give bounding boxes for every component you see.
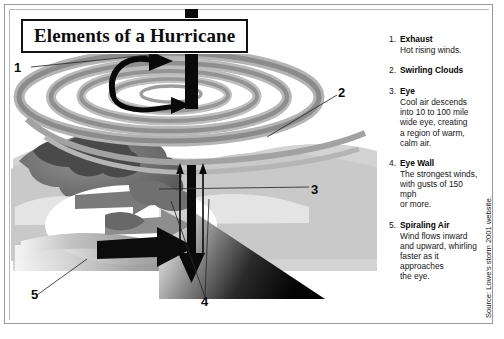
legend-number: 5. — [389, 220, 400, 230]
legend-number: 4. — [389, 158, 400, 168]
legend-item-eye-wall: 4. Eye Wall The strongest winds, with gu… — [389, 158, 479, 210]
hurricane-illustration — [9, 9, 381, 319]
legend-term: Exhaust — [400, 34, 479, 44]
legend-number: 1. — [389, 34, 400, 44]
source-credit-container: Source: Lowe's storm 2001 website. — [484, 148, 500, 318]
legend-term: Spiraling Air — [400, 220, 479, 230]
legend-number: 2. — [389, 65, 400, 75]
hurricane-diagram-figure: Elements of a Hurricane 1 2 3 4 5 1. Exh… — [0, 0, 504, 339]
legend-description: Cool air descends into 10 to 100 mile wi… — [400, 97, 479, 148]
callout-number-4: 4 — [201, 295, 208, 308]
callout-number-1: 1 — [14, 61, 21, 74]
swirling-cloud-rings — [19, 53, 319, 141]
legend-item-swirling-clouds: 2. Swirling Clouds — [389, 65, 479, 76]
legend-number: 3. — [389, 86, 400, 96]
legend-item-spiraling-air: 5. Spiraling Air Wind flows inward and u… — [389, 220, 479, 282]
legend-term: Eye — [400, 86, 479, 96]
legend-description: The strongest winds, with gusts of 150 m… — [400, 169, 479, 210]
callout-number-5: 5 — [31, 288, 38, 301]
callout-number-2: 2 — [338, 86, 345, 99]
source-credit: Source: Lowe's storm 2001 website. — [484, 196, 493, 318]
legend-item-eye: 3. Eye Cool air descends into 10 to 100 … — [389, 86, 479, 148]
legend-term: Eye Wall — [400, 158, 479, 168]
legend-list: 1. Exhaust Hot rising winds. 2. Swirling… — [389, 34, 479, 292]
legend-description: Hot rising winds. — [400, 45, 479, 55]
callout-number-3: 3 — [311, 183, 318, 196]
page-title: Elements of a Hurricane — [34, 25, 235, 46]
figure-title-box: Elements of a Hurricane — [21, 19, 248, 53]
legend-item-exhaust: 1. Exhaust Hot rising winds. — [389, 34, 479, 55]
legend-description: Wind flows inward and upward, whirling f… — [400, 231, 479, 282]
hurricane-artwork-svg — [9, 9, 381, 319]
legend-term: Swirling Clouds — [400, 65, 479, 75]
